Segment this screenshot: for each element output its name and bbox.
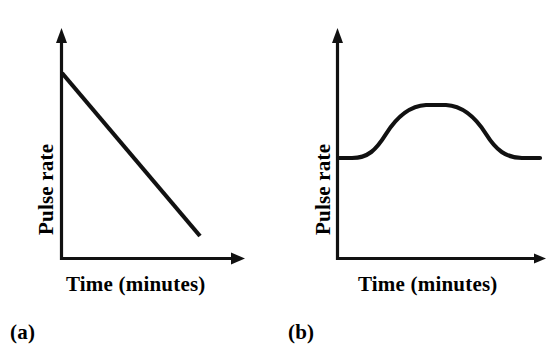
chart-a-caption: (a) xyxy=(10,320,35,345)
chart-b-x-axis-label: Time (minutes) xyxy=(358,272,498,297)
chart-a-x-axis-label: Time (minutes) xyxy=(66,272,206,297)
chart-b-x-axis xyxy=(336,254,546,264)
chart-panel-b: Pulse rate Time (minutes) (b) xyxy=(280,0,560,357)
chart-b-caption: (b) xyxy=(288,320,314,345)
chart-a-x-axis xyxy=(60,253,245,265)
chart-a-y-axis-label: Pulse rate xyxy=(34,144,59,235)
chart-b-data-curve xyxy=(338,105,540,158)
chart-b-y-axis-label: Pulse rate xyxy=(311,144,336,235)
figure-root: Complete the graph below. Pulse rate Tim… xyxy=(0,0,560,357)
chart-panel-a: Pulse rate Time (minutes) (a) xyxy=(0,0,280,357)
chart-a-data-line xyxy=(62,73,200,236)
